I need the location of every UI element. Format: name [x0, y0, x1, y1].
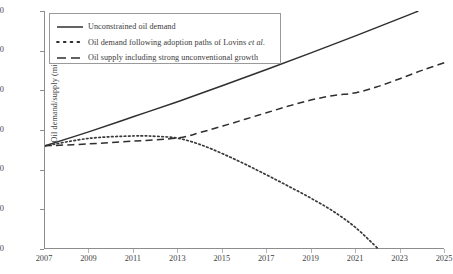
- x-tick-mark: [222, 249, 223, 253]
- x-tick-label: 2019: [291, 254, 331, 263]
- x-tick-label: 2011: [113, 254, 153, 263]
- y-tick-label: 90: [0, 125, 4, 134]
- x-tick-label: 2021: [335, 254, 375, 263]
- series-line: [45, 136, 378, 249]
- x-tick-mark: [444, 249, 445, 253]
- x-tick-label: 2017: [246, 254, 286, 263]
- legend-item: Oil demand following adoption paths of L…: [56, 35, 274, 51]
- legend-label: Unconstrained oil demand: [88, 22, 176, 31]
- x-tick-mark: [355, 249, 356, 253]
- y-tick-label: 100: [0, 85, 4, 94]
- x-tick-label: 2009: [68, 254, 108, 263]
- y-tick-label: 110: [0, 45, 4, 54]
- y-tick-mark: [40, 249, 44, 250]
- legend-label: Oil demand following adoption paths of L…: [88, 38, 265, 47]
- legend: Unconstrained oil demandOil demand follo…: [49, 13, 281, 64]
- legend-swatch-dotted-icon: [56, 37, 84, 47]
- y-tick-label: 70: [0, 204, 4, 213]
- x-tick-mark: [133, 249, 134, 253]
- y-tick-label: 60: [0, 244, 4, 253]
- series-line: [45, 63, 445, 146]
- x-tick-label: 2025: [424, 254, 453, 263]
- legend-swatch-dashed-icon: [56, 53, 84, 63]
- x-tick-mark: [177, 249, 178, 253]
- x-tick-mark: [88, 249, 89, 253]
- y-tick-label: 80: [0, 164, 4, 173]
- x-tick-mark: [400, 249, 401, 253]
- legend-swatch-solid-icon: [56, 22, 84, 32]
- x-tick-label: 2023: [380, 254, 420, 263]
- x-tick-label: 2007: [24, 254, 64, 263]
- x-tick-label: 2013: [157, 254, 197, 263]
- legend-item: Unconstrained oil demand: [56, 19, 274, 35]
- x-tick-mark: [311, 249, 312, 253]
- x-tick-mark: [266, 249, 267, 253]
- oil-demand-supply-chart: Oil demand/supply (million bbl/day) 6070…: [0, 0, 453, 274]
- x-tick-label: 2015: [202, 254, 242, 263]
- legend-item: Oil supply including strong unconvention…: [56, 50, 274, 66]
- legend-label: Oil supply including strong unconvention…: [88, 53, 258, 62]
- y-tick-label: 120: [0, 6, 4, 15]
